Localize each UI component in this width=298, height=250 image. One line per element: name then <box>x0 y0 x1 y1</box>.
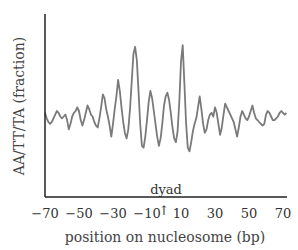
y-axis-label: AA/TT/TA (fraction) <box>11 37 27 176</box>
chart: −70−50−30−1010305070 dyad ↑ position on … <box>0 0 298 250</box>
series-line-aa-tt-ta <box>45 45 286 151</box>
dyad-arrow-icon: ↑ <box>159 203 170 218</box>
x-tick-label: −10 <box>133 206 160 221</box>
x-tick-label: −50 <box>65 206 92 221</box>
x-axis-label: position on nucleosome (bp) <box>65 229 265 245</box>
x-tick-label: 50 <box>241 206 258 221</box>
x-tick-label: −70 <box>31 206 58 221</box>
x-tick-label: 70 <box>275 206 292 221</box>
plot-area <box>45 14 287 197</box>
x-tick-label: 30 <box>207 206 224 221</box>
x-tick-label: 10 <box>173 206 190 221</box>
dyad-annotation: dyad <box>150 182 182 197</box>
x-tick-label: −30 <box>99 206 126 221</box>
